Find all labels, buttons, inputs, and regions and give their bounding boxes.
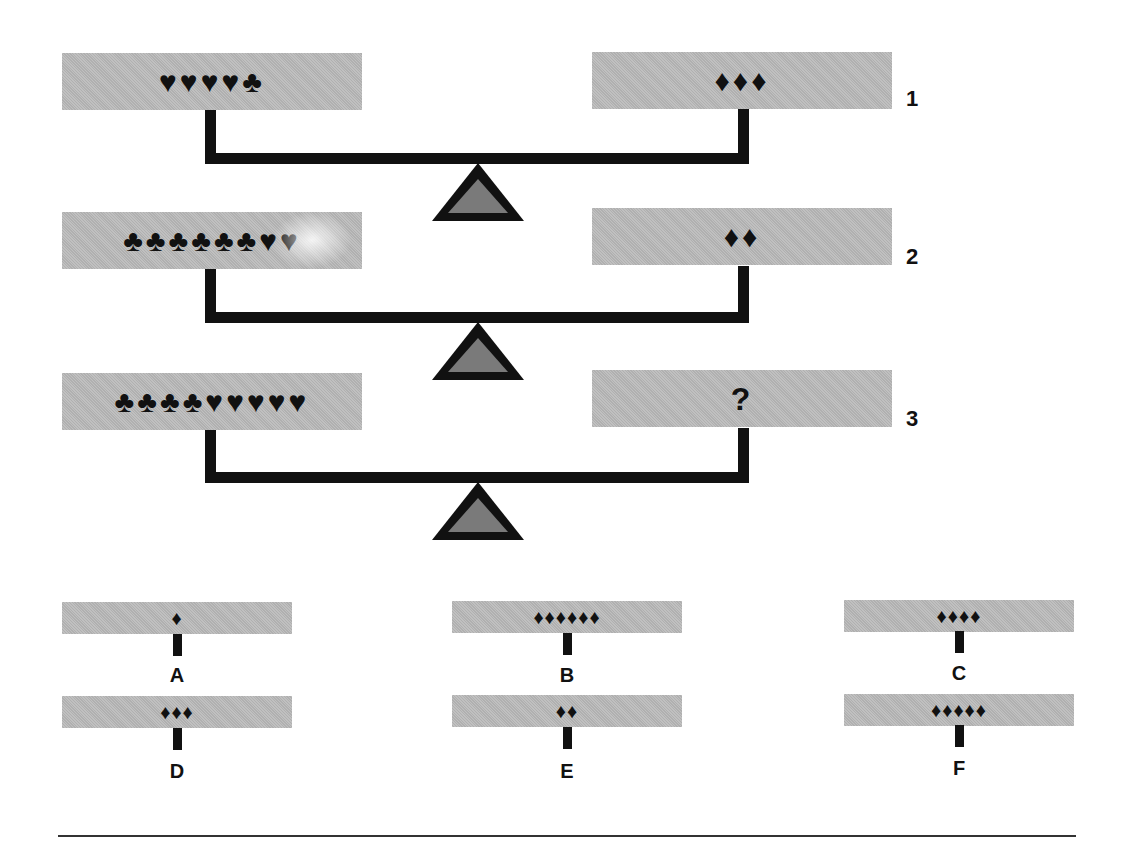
option-a-stem	[173, 634, 182, 656]
option-c-bar[interactable]: ♦♦♦♦	[844, 600, 1074, 632]
scale-2-left-pan-symbols: ♣♣♣♣♣♣♥♥	[123, 226, 301, 256]
scale-2-number: 2	[906, 244, 918, 270]
option-c-stem	[955, 631, 964, 653]
option-e-label[interactable]: E	[552, 760, 582, 783]
scale-1-number: 1	[906, 86, 918, 112]
scale-3-right-pan: ?	[592, 370, 892, 427]
scale-2-right-pan: ♦♦	[592, 208, 892, 265]
scale-2-left-pan: ♣♣♣♣♣♣♥♥	[62, 212, 362, 269]
scale-1-right-pan: ♦♦♦	[592, 52, 892, 109]
option-d-label[interactable]: D	[162, 760, 192, 783]
scale-1-right-pan-symbols: ♦♦♦	[715, 66, 770, 96]
option-e-bar[interactable]: ♦♦	[452, 695, 682, 727]
option-f-label[interactable]: F	[944, 757, 974, 780]
scale-3-number: 3	[906, 406, 918, 432]
option-e-stem	[563, 727, 572, 749]
option-b-label[interactable]: B	[552, 664, 582, 687]
option-f-symbols: ♦♦♦♦♦	[931, 700, 987, 720]
option-d-symbols: ♦♦♦	[160, 702, 194, 722]
option-a-symbols: ♦	[171, 608, 182, 628]
scale-3-fulcrum-icon	[430, 480, 526, 542]
scale-2-fulcrum-icon	[430, 320, 526, 382]
option-d-bar[interactable]: ♦♦♦	[62, 696, 292, 728]
option-c-symbols: ♦♦♦♦	[937, 606, 982, 626]
option-e-symbols: ♦♦	[556, 701, 578, 721]
scale-2-right-pan-symbols: ♦♦	[724, 222, 761, 252]
option-a-bar[interactable]: ♦	[62, 602, 292, 634]
option-c-label[interactable]: C	[944, 662, 974, 685]
option-d-stem	[173, 728, 182, 750]
scale-3-left-pan-symbols: ♣♣♣♣♥♥♥♥♥	[115, 387, 310, 417]
option-b-bar[interactable]: ♦♦♦♦♦♦	[452, 601, 682, 633]
option-a-label[interactable]: A	[162, 664, 192, 687]
option-f-stem	[955, 725, 964, 747]
option-b-symbols: ♦♦♦♦♦♦	[533, 607, 600, 627]
option-b-stem	[563, 633, 572, 655]
option-f-bar[interactable]: ♦♦♦♦♦	[844, 694, 1074, 726]
scale-1-left-pan-symbols: ♥♥♥♥♣	[159, 67, 265, 97]
scale-1-fulcrum-icon	[430, 161, 526, 223]
bottom-divider	[58, 835, 1076, 837]
scale-3-left-pan: ♣♣♣♣♥♥♥♥♥	[62, 373, 362, 430]
scale-1-left-pan: ♥♥♥♥♣	[62, 53, 362, 110]
scale-3-unknown-symbol: ?	[731, 383, 754, 415]
